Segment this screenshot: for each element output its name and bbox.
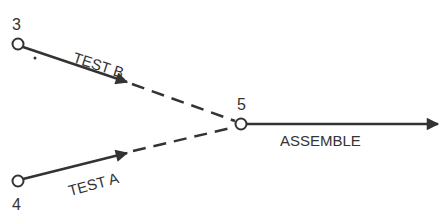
node-label: 4	[12, 196, 21, 213]
edge-assemble: ASSEMBLE	[247, 124, 438, 149]
node-circle	[236, 119, 247, 130]
dot-mark	[34, 57, 37, 60]
node-label: 3	[12, 16, 21, 33]
dashed-line-test-b	[132, 84, 235, 121]
node-circle	[13, 176, 24, 187]
edge-test-a: TEST A	[23, 127, 235, 199]
edge-test-b: TEST B	[23, 47, 235, 121]
node-4: 4	[12, 176, 24, 214]
edge-label-test-b: TEST B	[71, 49, 126, 81]
edge-label-test-a: TEST A	[66, 169, 120, 199]
node-label: 5	[237, 96, 246, 113]
edge-label-assemble: ASSEMBLE	[280, 132, 361, 149]
dashed-line-test-a	[133, 127, 235, 151]
node-5: 5	[236, 96, 247, 130]
network-diagram: TEST B TEST A ASSEMBLE 3 4 5	[0, 0, 446, 224]
node-circle	[13, 39, 24, 50]
node-3: 3	[12, 16, 24, 50]
